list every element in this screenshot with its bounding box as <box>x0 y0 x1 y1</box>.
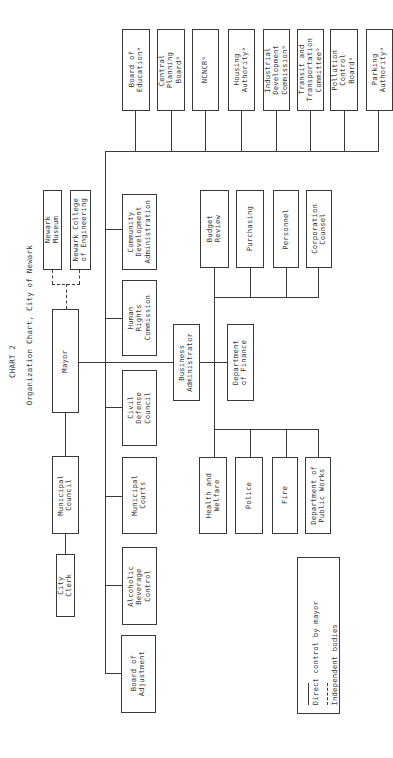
node-label: Health and Welfare <box>205 473 222 518</box>
connector <box>105 407 122 408</box>
chart-number: CHART 2 <box>9 345 17 378</box>
mayor-to-admin-line <box>79 362 173 363</box>
node-mayor: Mayor <box>52 309 79 413</box>
dashed-connector <box>66 284 67 309</box>
node-budget-review: Budget Review <box>200 190 229 268</box>
connector <box>286 429 287 457</box>
node-department-of-finance: Department of Finance <box>227 324 254 401</box>
chart-caption: Organization Chart, City of Newark <box>26 245 34 405</box>
connector <box>105 496 122 497</box>
node-housing-authority: Housing Authorityᵃ <box>228 29 255 111</box>
node-newark-college: Newark College of Engineering <box>70 190 91 270</box>
legend-dashed-label: Independent bodies <box>331 624 339 706</box>
solid-line-swatch <box>308 683 309 705</box>
node-label: Transit and Transportation Committeeᵇ <box>298 38 323 101</box>
node-label: Board of Adjustment <box>130 651 147 696</box>
node-label: Corporation Counsel <box>311 204 328 254</box>
node-purchasing: Purchasing <box>236 190 264 268</box>
admin-to-finance-line <box>200 362 227 363</box>
node-parking-authority: Parking Authorityᵃ <box>366 29 393 111</box>
node-pollution-control-board: Pollution Control Boardᵇ <box>330 29 358 111</box>
node-board-of-education: Board of Educationᵃ <box>122 29 150 111</box>
connector <box>318 429 319 457</box>
node-human-rights: Human Rights Commission <box>122 280 157 356</box>
node-label: Business Administrator <box>178 333 195 392</box>
connector <box>205 111 206 151</box>
node-business-administrator: Business Administrator <box>173 324 200 401</box>
departments-bus <box>214 429 319 430</box>
connector <box>250 429 251 457</box>
legend-item-solid <box>308 683 309 705</box>
independent-bodies-bus <box>105 151 379 152</box>
connector <box>286 268 287 297</box>
node-ncncr: NCNCRᵇ <box>192 29 219 111</box>
node-label: Board of Educationᵃ <box>128 47 145 92</box>
connector <box>105 585 122 586</box>
legend: Direct control by mayor Independent bodi… <box>297 557 340 714</box>
node-police: Police <box>235 457 263 534</box>
connector <box>214 268 215 297</box>
connector <box>344 111 345 151</box>
node-corporation-counsel: Corporation Counsel <box>306 190 332 268</box>
node-community-development: Community Development Administration <box>122 194 157 270</box>
connector <box>105 673 122 674</box>
node-label: Municipal Council <box>57 475 74 516</box>
connector <box>318 268 319 297</box>
node-central-planning-board: Central Planning Boardᵃ <box>157 29 185 111</box>
node-label: Budget Review <box>206 215 223 242</box>
node-label: Central Planning Boardᵃ <box>158 52 183 88</box>
node-label: Community Development Administration <box>127 200 152 263</box>
node-label: Housing Authorityᵃ <box>233 47 250 92</box>
node-label: Civil Defense Council <box>127 392 152 424</box>
connector <box>378 111 379 151</box>
node-city-clerk: City Clerk <box>56 554 75 617</box>
node-label: Parking Authorityᵃ <box>371 47 388 92</box>
node-board-of-adjustment: Board of Adjustment <box>121 635 156 713</box>
connector <box>241 111 242 151</box>
legend-item-dashed <box>327 683 328 705</box>
node-label: City Clerk <box>57 574 74 597</box>
node-fire: Fire <box>272 457 298 534</box>
node-newark-museum: Newark Museum <box>43 190 62 270</box>
node-label: Police <box>245 482 253 509</box>
legend-solid-label: Direct control by mayor <box>312 601 320 705</box>
connector <box>310 111 311 151</box>
node-municipal-council: Municipal Council <box>52 456 79 534</box>
node-label: Fire <box>281 486 289 504</box>
connector <box>276 111 277 151</box>
dashed-connector <box>52 284 80 285</box>
connector <box>105 318 122 319</box>
admin-vertical-line <box>214 297 215 457</box>
node-label: Newark Museum <box>44 216 61 243</box>
node-label: Human Rights Commission <box>127 295 152 340</box>
connector <box>250 268 251 297</box>
dashed-line-swatch <box>327 683 328 705</box>
node-municipal-courts: Municipal Courts <box>122 457 157 534</box>
node-public-works: Department of Public Works <box>305 457 331 534</box>
dashed-connector <box>79 270 80 284</box>
node-label: Pollution Control Boardᵇ <box>331 50 356 91</box>
node-industrial-development-commission: Industrial Development Commissionᵇ <box>263 29 290 111</box>
council-to-clerk-line <box>65 534 66 554</box>
node-label: Department of Finance <box>232 340 249 385</box>
mayor-to-council-line <box>65 413 66 456</box>
node-label: Mayor <box>61 350 69 373</box>
node-health-and-welfare: Health and Welfare <box>199 457 227 534</box>
dashed-connector <box>52 270 53 284</box>
node-label: Department of Public Works <box>310 466 327 525</box>
node-label: Municipal Courts <box>131 475 148 516</box>
node-label: NCNCRᵇ <box>201 56 209 83</box>
connector <box>105 229 122 230</box>
node-label: Industrial Development Commissionᵇ <box>264 45 289 95</box>
node-label: Newark College of Engineering <box>72 198 89 261</box>
node-alcoholic-beverage-control: Alcoholic Beverage Control <box>122 547 157 625</box>
node-label: Alcoholic Beverage Control <box>127 566 152 607</box>
finance-units-bus <box>214 297 319 298</box>
connector <box>135 111 136 151</box>
node-civil-defense: Civil Defense Council <box>122 370 157 446</box>
node-label: Personnel <box>282 209 290 250</box>
node-transit-committee: Transit and Transportation Committeeᵇ <box>297 29 324 111</box>
connector <box>171 111 172 151</box>
node-label: Purchasing <box>246 206 254 251</box>
node-personnel: Personnel <box>273 190 299 268</box>
